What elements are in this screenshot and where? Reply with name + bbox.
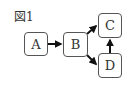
- node-b: B: [63, 32, 88, 57]
- node-d: D: [98, 53, 122, 78]
- node-c-label: C: [105, 18, 115, 33]
- node-a: A: [24, 32, 48, 56]
- edge-b-c: [87, 26, 96, 34]
- node-d-label: D: [105, 58, 115, 73]
- edge-b-d: [87, 55, 96, 64]
- node-c: C: [98, 13, 122, 38]
- node-b-label: B: [71, 37, 81, 52]
- node-a-label: A: [31, 37, 40, 52]
